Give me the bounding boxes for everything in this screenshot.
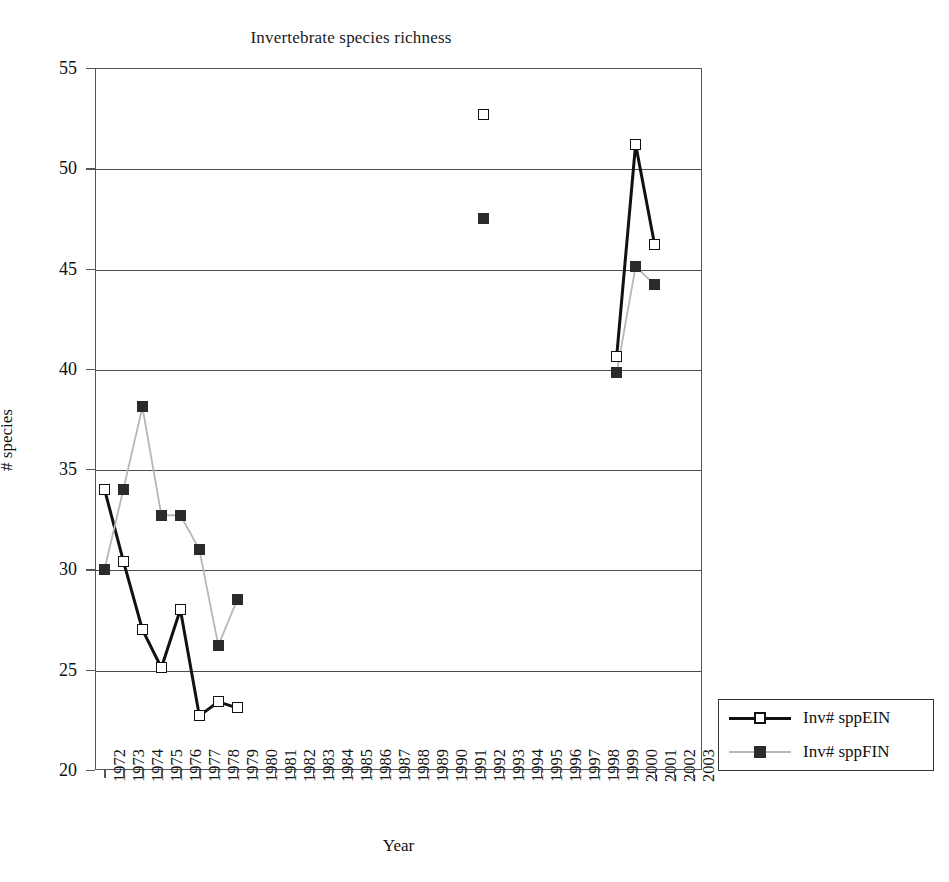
- x-tick-mark: [294, 770, 295, 778]
- data-point-marker: [478, 213, 489, 224]
- data-point-marker: [232, 702, 243, 713]
- data-point-marker: [611, 351, 622, 362]
- y-tick-mark: [86, 68, 95, 69]
- x-tick-label: 1991: [471, 749, 491, 782]
- legend-item-fin[interactable]: Inv# sppFIN: [719, 735, 933, 769]
- y-tick-mark: [86, 469, 95, 470]
- x-tick-label: 1992: [490, 749, 510, 782]
- filled-square-icon: [754, 746, 766, 758]
- data-point-marker: [232, 594, 243, 605]
- x-tick-mark: [674, 770, 675, 778]
- x-tick-mark: [541, 770, 542, 778]
- x-tick-mark: [389, 770, 390, 778]
- x-tick-mark: [693, 770, 694, 778]
- legend-label-fin: Inv# sppFIN: [803, 742, 889, 762]
- y-tick-mark: [86, 269, 95, 270]
- y-tick-label: 45: [59, 258, 77, 279]
- data-point-marker: [156, 662, 167, 673]
- legend-item-ein[interactable]: Inv# sppEIN: [719, 701, 933, 735]
- x-tick-label: 1994: [528, 749, 548, 782]
- x-tick-mark: [370, 770, 371, 778]
- data-point-marker: [630, 261, 641, 272]
- x-tick-mark: [446, 770, 447, 778]
- x-tick-mark: [579, 770, 580, 778]
- x-tick-mark: [142, 770, 143, 778]
- x-tick-mark: [522, 770, 523, 778]
- y-tick-label: 55: [59, 58, 77, 79]
- x-tick-label: 1997: [585, 749, 605, 782]
- data-point-marker: [137, 624, 148, 635]
- x-tick-label: 1984: [338, 749, 358, 782]
- x-tick-label: 1973: [129, 749, 149, 782]
- legend-label-ein: Inv# sppEIN: [803, 708, 890, 728]
- series-line: [104, 489, 237, 716]
- x-tick-label: 1985: [357, 749, 377, 782]
- data-point-marker: [649, 279, 660, 290]
- x-tick-mark: [199, 770, 200, 778]
- y-tick-mark: [86, 670, 95, 671]
- y-tick-mark: [86, 369, 95, 370]
- data-point-marker: [118, 556, 129, 567]
- y-tick-label: 35: [59, 459, 77, 480]
- chart-legend: Inv# sppEIN Inv# sppFIN: [718, 699, 934, 771]
- data-point-marker: [156, 510, 167, 521]
- data-point-marker: [137, 401, 148, 412]
- series-line: [617, 144, 655, 357]
- x-tick-label: 1976: [186, 749, 206, 782]
- y-tick-mark: [86, 770, 95, 771]
- data-point-marker: [118, 484, 129, 495]
- data-point-marker: [194, 710, 205, 721]
- data-point-marker: [478, 109, 489, 120]
- x-tick-mark: [560, 770, 561, 778]
- x-tick-mark: [123, 770, 124, 778]
- open-square-icon: [754, 712, 766, 724]
- x-tick-mark: [180, 770, 181, 778]
- data-point-marker: [630, 139, 641, 150]
- x-tick-mark: [484, 770, 485, 778]
- data-point-marker: [213, 696, 224, 707]
- y-tick-label: 20: [59, 760, 77, 781]
- x-tick-label: 1975: [167, 749, 187, 782]
- chart-figure: Invertebrate species richness # species …: [0, 0, 949, 882]
- x-tick-label: 1987: [395, 749, 415, 782]
- legend-swatch-ein: [729, 710, 791, 726]
- data-point-marker: [213, 640, 224, 651]
- x-tick-mark: [161, 770, 162, 778]
- series-line: [104, 407, 237, 646]
- x-tick-label: 1974: [148, 749, 168, 782]
- x-tick-mark: [351, 770, 352, 778]
- x-tick-label: 1999: [623, 749, 643, 782]
- x-tick-label: 1979: [243, 749, 263, 782]
- chart-title: Invertebrate species richness: [0, 28, 702, 48]
- x-tick-label: 1983: [319, 749, 339, 782]
- x-tick-label: 1995: [547, 749, 567, 782]
- x-tick-label: 1980: [262, 749, 282, 782]
- data-point-marker: [175, 604, 186, 615]
- data-point-marker: [99, 484, 110, 495]
- x-tick-label: 1982: [300, 749, 320, 782]
- data-point-marker: [99, 564, 110, 575]
- x-tick-mark: [313, 770, 314, 778]
- data-point-marker: [175, 510, 186, 521]
- x-tick-label: 2003: [699, 749, 719, 782]
- x-tick-label: 1989: [433, 749, 453, 782]
- data-point-marker: [194, 544, 205, 555]
- y-tick-mark: [86, 168, 95, 169]
- x-tick-mark: [237, 770, 238, 778]
- y-tick-label: 40: [59, 358, 77, 379]
- x-tick-label: 2001: [661, 749, 681, 782]
- x-axis-title: Year: [95, 836, 702, 856]
- x-tick-label: 1978: [224, 749, 244, 782]
- data-point-marker: [649, 239, 660, 250]
- x-tick-label: 1986: [376, 749, 396, 782]
- x-tick-label: 1977: [205, 749, 225, 782]
- series-lines: [95, 68, 702, 770]
- x-tick-mark: [617, 770, 618, 778]
- y-tick-label: 30: [59, 559, 77, 580]
- x-tick-label: 1988: [414, 749, 434, 782]
- x-tick-mark: [636, 770, 637, 778]
- x-tick-mark: [598, 770, 599, 778]
- x-tick-label: 2002: [680, 749, 700, 782]
- x-tick-label: 1998: [604, 749, 624, 782]
- x-tick-label: 1993: [509, 749, 529, 782]
